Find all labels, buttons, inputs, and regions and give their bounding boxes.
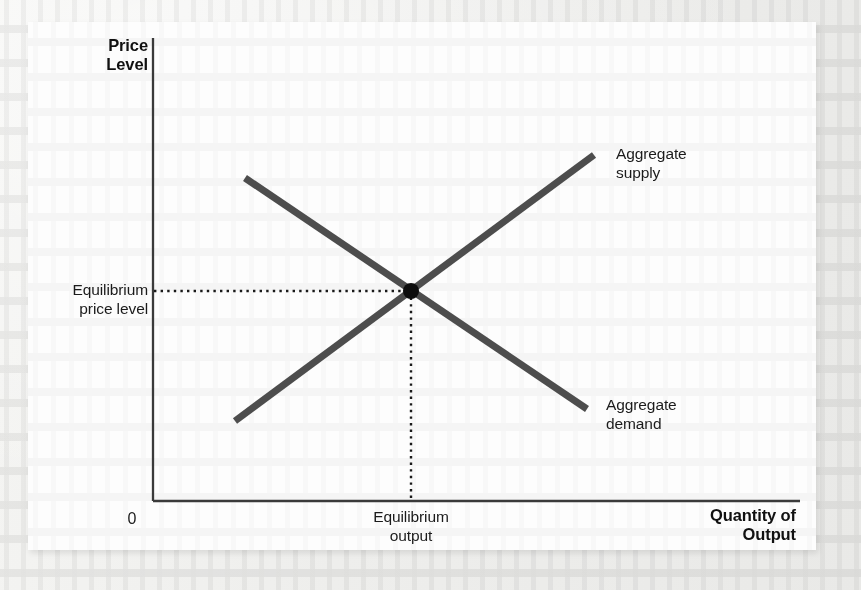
x-axis-title: Quantity of Output: [636, 506, 796, 545]
x-axis-title-line-2: Output: [636, 525, 796, 544]
aggregate-demand-label-line-2: demand: [606, 415, 756, 434]
equilibrium-price-level-label: Equilibrium price level: [6, 281, 148, 319]
x-axis-title-line-1: Quantity of: [636, 506, 796, 525]
aggregate-supply-label-line-2: supply: [616, 164, 766, 183]
aggregate-supply-label-line-1: Aggregate: [616, 145, 766, 164]
aggregate-demand-label: Aggregate demand: [606, 396, 756, 434]
figure-page: Price Level Quantity of Output 0 Equilib…: [0, 0, 861, 590]
equilibrium-output-label-line-2: output: [330, 527, 492, 546]
equilibrium-price-level-label-line-2: price level: [6, 300, 148, 319]
aggregate-demand-label-line-1: Aggregate: [606, 396, 756, 415]
y-axis-title-line-2: Level: [48, 55, 148, 74]
equilibrium-price-level-label-line-1: Equilibrium: [6, 281, 148, 300]
equilibrium-output-label: Equilibrium output: [330, 508, 492, 546]
equilibrium-output-label-line-1: Equilibrium: [330, 508, 492, 527]
y-axis-title: Price Level: [48, 36, 148, 75]
aggregate-supply-label: Aggregate supply: [616, 145, 766, 183]
origin-label: 0: [112, 509, 152, 529]
equilibrium-point: [403, 283, 419, 299]
y-axis-title-line-1: Price: [48, 36, 148, 55]
